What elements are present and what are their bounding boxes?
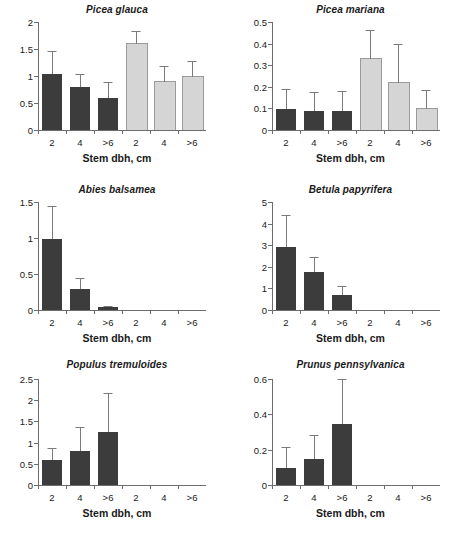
- plot-area: 00.511.522.524>624>6: [38, 379, 206, 485]
- bar: [416, 108, 438, 130]
- y-tick-label: 4: [262, 218, 267, 229]
- y-tick: [34, 400, 38, 401]
- x-tick: [66, 485, 67, 489]
- y-tick-label: 2: [28, 17, 33, 28]
- error-bar: [286, 447, 287, 468]
- x-tick: [412, 130, 413, 134]
- error-bar: [314, 92, 315, 111]
- plot-area: 00.10.20.30.40.524>624>6: [272, 22, 440, 130]
- x-tick: [384, 130, 385, 134]
- x-tick: [94, 485, 95, 489]
- bar: [70, 289, 90, 310]
- x-tick-label: >6: [421, 137, 432, 148]
- y-tick-label: 1: [28, 71, 33, 82]
- x-axis-label: Stem dbh, cm: [234, 507, 467, 519]
- y-tick-label: 0.4: [254, 38, 267, 49]
- plot-area: 00.511.5224>624>6: [38, 22, 206, 130]
- bar: [98, 432, 118, 485]
- x-tick-label: >6: [421, 492, 432, 503]
- x-tick-label: 4: [77, 137, 82, 148]
- panel-title: Abies balsamea: [0, 184, 234, 195]
- y-tick-label: 0.1: [254, 103, 267, 114]
- x-tick: [412, 310, 413, 314]
- error-bar-cap: [188, 61, 197, 62]
- panel-title: Populus tremuloides: [0, 359, 234, 370]
- y-tick: [34, 202, 38, 203]
- bar: [304, 459, 324, 485]
- x-tick: [272, 310, 273, 314]
- x-tick: [356, 310, 357, 314]
- x-tick-label: 4: [77, 492, 82, 503]
- chart-panel: Picea mariana00.10.20.30.40.524>624>6Ste…: [234, 0, 467, 180]
- y-tick-label: 0.2: [254, 81, 267, 92]
- figure-caption-clipped: Results are presented by diameter (dbh) …: [0, 528, 467, 539]
- y-tick-label: 1: [262, 283, 267, 294]
- x-tick: [356, 485, 357, 489]
- error-bar-cap: [76, 74, 85, 75]
- chart-panel: Abies balsamea00.511.524>624>6Stem dbh, …: [0, 180, 234, 355]
- y-tick-label: 0.5: [254, 17, 267, 28]
- bar: [98, 307, 118, 310]
- x-tick-label: 4: [311, 317, 316, 328]
- error-bar: [342, 91, 343, 111]
- x-tick-label: >6: [187, 137, 198, 148]
- error-bar: [52, 51, 53, 74]
- error-bar-cap: [76, 427, 85, 428]
- plot-area: 01234524>624>6: [272, 202, 440, 310]
- y-axis: [272, 202, 273, 310]
- error-bar-cap: [338, 286, 347, 287]
- error-bar: [398, 44, 399, 84]
- error-bar: [314, 435, 315, 460]
- y-tick: [268, 87, 272, 88]
- x-tick: [178, 485, 179, 489]
- y-tick: [268, 267, 272, 268]
- y-tick-label: 1.5: [20, 44, 33, 55]
- error-bar: [108, 393, 109, 432]
- x-tick: [122, 310, 123, 314]
- error-bar-cap: [104, 393, 113, 394]
- x-tick: [328, 130, 329, 134]
- error-bar-cap: [48, 51, 57, 52]
- x-tick: [38, 310, 39, 314]
- error-bar: [80, 74, 81, 87]
- y-axis: [272, 379, 273, 485]
- y-tick-label: 0: [262, 480, 267, 491]
- error-bar: [314, 257, 315, 272]
- error-bar-cap: [366, 30, 375, 31]
- x-tick: [384, 485, 385, 489]
- y-tick-label: 0.4: [254, 409, 267, 420]
- error-bar: [52, 448, 53, 460]
- x-tick-label: 4: [77, 317, 82, 328]
- bar: [304, 272, 324, 310]
- x-axis-label: Stem dbh, cm: [0, 507, 234, 519]
- y-tick: [34, 22, 38, 23]
- y-axis: [38, 202, 39, 310]
- error-bar-cap: [76, 278, 85, 279]
- error-bar-cap: [338, 91, 347, 92]
- error-bar: [108, 82, 109, 98]
- x-axis-label: Stem dbh, cm: [234, 152, 467, 164]
- bar: [332, 295, 352, 310]
- y-tick-label: 0.5: [20, 98, 33, 109]
- y-tick-label: 0: [262, 305, 267, 316]
- x-tick-label: 4: [311, 137, 316, 148]
- x-tick-label: 2: [283, 317, 288, 328]
- bar: [42, 460, 62, 485]
- y-tick: [268, 65, 272, 66]
- y-tick-label: 1.5: [20, 197, 33, 208]
- chart-panel: Populus tremuloides00.511.522.524>624>6S…: [0, 355, 234, 515]
- x-tick: [66, 310, 67, 314]
- y-tick: [34, 76, 38, 77]
- error-bar-cap: [282, 447, 291, 448]
- panel-title: Prunus pennsylvanica: [234, 359, 467, 370]
- y-tick: [34, 421, 38, 422]
- y-tick: [34, 274, 38, 275]
- y-tick: [268, 202, 272, 203]
- y-tick-label: 2: [28, 395, 33, 406]
- x-tick-label: >6: [103, 492, 114, 503]
- x-axis-label: Stem dbh, cm: [0, 332, 234, 344]
- bar: [276, 468, 296, 485]
- y-tick-label: 2.5: [20, 374, 33, 385]
- bar: [304, 111, 324, 130]
- x-tick-label: >6: [187, 492, 198, 503]
